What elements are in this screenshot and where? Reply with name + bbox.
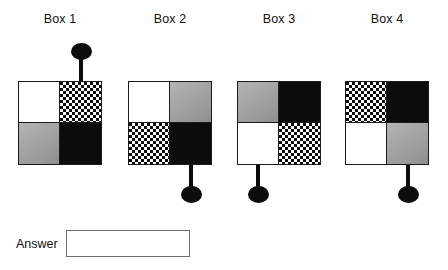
cell-bottom-right-black [170, 123, 211, 164]
cell-top-right-black [387, 82, 428, 123]
box-grid-2 [128, 81, 212, 165]
cell-bottom-left-white [346, 123, 387, 164]
answer-label: Answer [16, 237, 58, 251]
box-figure-3 [237, 81, 321, 165]
box-label-2: Box 2 [128, 12, 212, 26]
answer-input[interactable] [66, 230, 190, 257]
pointer-knob-icon [71, 43, 92, 60]
box-label-1: Box 1 [18, 12, 102, 26]
cell-bottom-left-white [238, 123, 279, 164]
cell-bottom-right-black [60, 123, 101, 164]
box-label-4: Box 4 [345, 12, 429, 26]
cell-top-left-white [129, 82, 170, 123]
pointer-knob-icon [248, 186, 269, 203]
cell-bottom-left-gray [19, 123, 60, 164]
box-grid-4 [345, 81, 429, 165]
cell-top-right-black [279, 82, 320, 123]
pointer-knob-icon [398, 186, 419, 203]
box-grid-1 [18, 81, 102, 165]
box-figure-2 [128, 81, 212, 165]
worksheet-canvas: Box 1Box 2Box 3Box 4 Answer [0, 0, 448, 270]
cell-bottom-right-checker [279, 123, 320, 164]
answer-row: Answer [16, 230, 190, 257]
cell-top-left-checker [346, 82, 387, 123]
pointer-stem-icon [79, 57, 82, 81]
box-grid-3 [237, 81, 321, 165]
cell-bottom-left-checker [129, 123, 170, 164]
cell-top-right-gray [170, 82, 211, 123]
cell-top-right-checker [60, 82, 101, 123]
box-figure-4 [345, 81, 429, 165]
box-figure-1 [18, 81, 102, 165]
cell-top-left-gray [238, 82, 279, 123]
cell-bottom-right-gray [387, 123, 428, 164]
box-label-3: Box 3 [237, 12, 321, 26]
cell-top-left-white [19, 82, 60, 123]
pointer-knob-icon [181, 186, 202, 203]
